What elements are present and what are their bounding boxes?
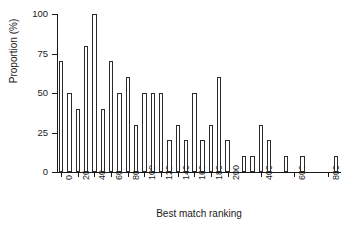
x-tick (328, 173, 329, 177)
bar (259, 125, 263, 172)
bar (267, 140, 271, 172)
bar (300, 156, 304, 172)
bar (184, 140, 188, 172)
x-tick (261, 173, 262, 177)
x-tick (128, 173, 129, 177)
x-tick (78, 173, 79, 177)
bar (101, 109, 105, 172)
bar (134, 125, 138, 172)
bar (334, 156, 338, 172)
y-tick-label: 75 (37, 49, 48, 59)
bar (284, 156, 288, 172)
x-tick (228, 173, 229, 177)
bar (67, 93, 71, 172)
bar (92, 14, 96, 172)
bar (225, 140, 229, 172)
x-tick (178, 173, 179, 177)
x-tick (211, 173, 212, 177)
bar (217, 77, 221, 172)
x-tick-label: 0 (65, 175, 74, 180)
y-axis-title: Proportion (%) (9, 0, 19, 111)
bar (209, 125, 213, 172)
y-tick-label: 50 (37, 88, 48, 98)
y-tick (52, 172, 57, 173)
bar (242, 156, 246, 172)
bar (200, 140, 204, 172)
y-tick-label: 25 (37, 128, 48, 138)
bar (250, 156, 254, 172)
bar (76, 109, 80, 172)
bar (142, 93, 146, 172)
x-tick (294, 173, 295, 177)
bar (84, 46, 88, 172)
bar (151, 93, 155, 172)
x-tick (94, 173, 95, 177)
x-tick (111, 173, 112, 177)
bar (109, 61, 113, 172)
chart-figure: 0255075100 02040608010012014016018020040… (0, 0, 350, 230)
y-tick-label: 0 (43, 167, 48, 177)
x-tick (144, 173, 145, 177)
bar (159, 93, 163, 172)
bar (176, 125, 180, 172)
plot-area (57, 14, 340, 172)
x-tick (161, 173, 162, 177)
y-tick-label: 100 (32, 9, 48, 19)
x-axis-title: Best match ranking (57, 209, 341, 219)
bar (167, 140, 171, 172)
bar (192, 93, 196, 172)
bar (126, 77, 130, 172)
x-tick (194, 173, 195, 177)
bar (117, 93, 121, 172)
bar (59, 61, 63, 172)
x-tick (61, 173, 62, 177)
